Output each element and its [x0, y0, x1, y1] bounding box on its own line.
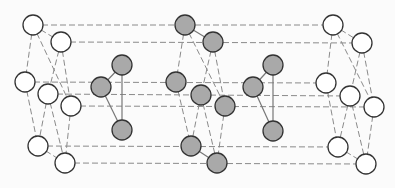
- node-R3: [316, 73, 336, 93]
- node-L7: [55, 153, 75, 173]
- node-A1: [112, 55, 132, 75]
- node-R7: [356, 154, 376, 174]
- node-R5: [364, 97, 384, 117]
- node-B2: [243, 77, 263, 97]
- node-R2: [352, 33, 372, 53]
- node-M4: [191, 85, 211, 105]
- node-B1: [263, 55, 283, 75]
- node-L5: [61, 96, 81, 116]
- node-M5: [215, 96, 235, 116]
- node-L3: [15, 72, 35, 92]
- node-R6: [328, 137, 348, 157]
- node-M6: [181, 136, 201, 156]
- node-B3: [263, 121, 283, 141]
- node-L1: [23, 15, 43, 35]
- node-M3: [166, 72, 186, 92]
- node-L4: [38, 84, 58, 104]
- graph-diagram: [0, 0, 395, 188]
- node-M1: [175, 15, 195, 35]
- node-A3: [112, 120, 132, 140]
- node-R4: [340, 86, 360, 106]
- node-M2: [203, 32, 223, 52]
- node-L6: [28, 136, 48, 156]
- diagram-canvas: [0, 0, 395, 188]
- node-R1: [323, 15, 343, 35]
- node-M7: [207, 153, 227, 173]
- node-A2: [91, 77, 111, 97]
- node-L2: [51, 32, 71, 52]
